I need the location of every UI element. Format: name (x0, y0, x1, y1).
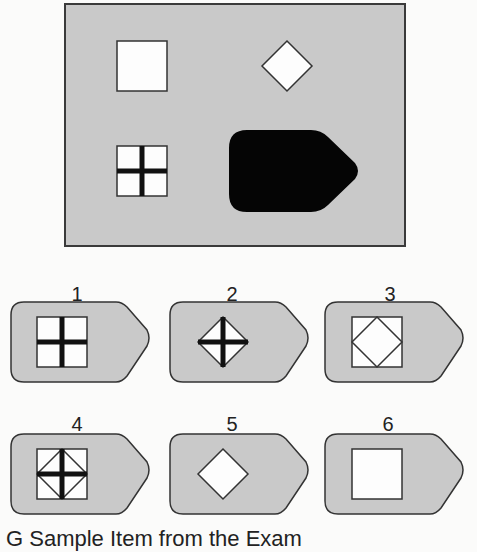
puzzle-matrix (64, 3, 406, 247)
figure-caption: G Sample Item from the Exam (6, 526, 302, 552)
black-tag-shape (229, 130, 358, 212)
diamond-shape (262, 41, 312, 91)
square-shape (117, 41, 167, 91)
option-5[interactable] (167, 432, 309, 517)
option-4[interactable] (8, 432, 150, 517)
option-3[interactable] (322, 300, 464, 385)
square-with-cross-shape (117, 146, 167, 196)
option-6[interactable] (322, 432, 464, 517)
option-1[interactable] (8, 300, 150, 385)
option-2[interactable] (167, 300, 309, 385)
